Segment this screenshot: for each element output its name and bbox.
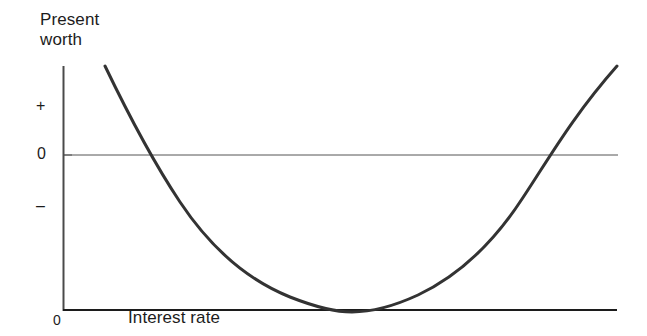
present-worth-chart: Presentworth + 0 – 0 Interest rate (0, 0, 647, 336)
y-axis-title-line-1: Present (40, 10, 99, 29)
chart-plot-area (0, 0, 647, 336)
y-axis-tick-label-minus: – (36, 197, 45, 216)
y-axis-tick-label-zero: 0 (37, 145, 46, 164)
y-axis-tick-label-plus: + (36, 97, 45, 116)
y-axis-title: Presentworth (40, 10, 99, 50)
x-axis-title: Interest rate (128, 308, 220, 328)
present-worth-curve (105, 66, 617, 312)
x-axis-origin-label: 0 (53, 312, 61, 329)
y-axis-title-line-2: worth (40, 30, 82, 49)
